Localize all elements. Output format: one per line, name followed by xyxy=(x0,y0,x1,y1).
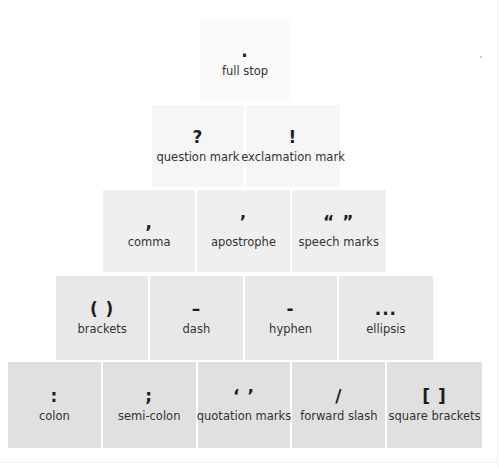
card-speech-marks: “ ” speech marks xyxy=(292,190,386,272)
speech-marks-symbol: “ ” xyxy=(323,212,354,232)
card-dash: – dash xyxy=(150,276,244,360)
pyramid-row-5: : colon ; semi-colon ‘ ’ quotation marks… xyxy=(8,362,482,448)
dash-label: dash xyxy=(183,321,211,337)
card-ellipsis: ... ellipsis xyxy=(339,276,433,360)
card-full-stop: . full stop xyxy=(200,20,290,100)
dash-symbol: – xyxy=(192,299,202,319)
hyphen-label: hyphen xyxy=(269,321,312,337)
pyramid-row-2: ? question mark ! exclamation mark xyxy=(152,105,340,187)
comma-symbol: , xyxy=(145,212,152,232)
exclamation-mark-label: exclamation mark xyxy=(241,149,345,165)
pyramid-row-3: , comma ’ apostrophe “ ” speech marks xyxy=(103,190,386,272)
quotation-marks-symbol: ‘ ’ xyxy=(233,386,255,406)
brackets-symbol: ( ) xyxy=(90,299,114,319)
frame-edge-right xyxy=(497,0,498,467)
colon-symbol: : xyxy=(50,386,58,406)
exclamation-mark-symbol: ! xyxy=(289,127,298,147)
card-square-brackets: [ ] square brackets xyxy=(387,362,482,448)
colon-label: colon xyxy=(39,408,70,424)
comma-label: comma xyxy=(128,234,171,250)
pyramid-row-1: . full stop xyxy=(200,20,290,100)
hyphen-symbol: - xyxy=(287,299,295,319)
ellipsis-label: ellipsis xyxy=(366,321,405,337)
card-hyphen: - hyphen xyxy=(245,276,339,360)
card-exclamation-mark: ! exclamation mark xyxy=(246,105,340,187)
pyramid-row-4: ( ) brackets – dash - hyphen ... ellipsi… xyxy=(56,276,433,360)
card-question-mark: ? question mark xyxy=(152,105,246,187)
semi-colon-label: semi-colon xyxy=(118,408,181,424)
forward-slash-label: forward slash xyxy=(300,408,377,424)
question-mark-label: question mark xyxy=(157,149,240,165)
stray-dot xyxy=(480,56,482,58)
card-brackets: ( ) brackets xyxy=(56,276,150,360)
brackets-label: brackets xyxy=(78,321,127,337)
forward-slash-symbol: / xyxy=(335,386,342,406)
apostrophe-symbol: ’ xyxy=(240,212,247,232)
card-forward-slash: / forward slash xyxy=(292,362,387,448)
card-colon: : colon xyxy=(8,362,103,448)
question-mark-symbol: ? xyxy=(193,127,204,147)
speech-marks-label: speech marks xyxy=(299,234,379,250)
ellipsis-symbol: ... xyxy=(375,299,397,319)
quotation-marks-label: quotation marks xyxy=(197,408,292,424)
card-quotation-marks: ‘ ’ quotation marks xyxy=(198,362,293,448)
card-comma: , comma xyxy=(103,190,197,272)
square-brackets-label: square brackets xyxy=(389,408,481,424)
card-apostrophe: ’ apostrophe xyxy=(197,190,291,272)
frame-edge-bottom xyxy=(0,462,497,463)
full-stop-label: full stop xyxy=(222,63,268,79)
square-brackets-symbol: [ ] xyxy=(422,386,446,406)
full-stop-symbol: . xyxy=(241,41,248,61)
semi-colon-symbol: ; xyxy=(145,386,153,406)
apostrophe-label: apostrophe xyxy=(211,234,276,250)
card-semi-colon: ; semi-colon xyxy=(103,362,198,448)
